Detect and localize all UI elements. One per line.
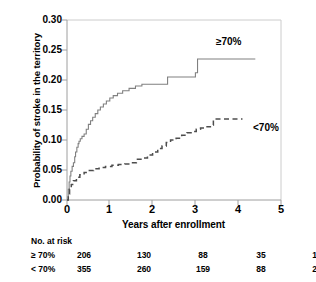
x-tick-label: 3 <box>185 203 205 215</box>
risk-cell: 10 <box>300 250 316 260</box>
x-tick-label: 5 <box>271 203 291 215</box>
y-tick-marks <box>62 20 67 200</box>
risk-table-title: No. at risk <box>31 236 72 246</box>
x-axis-title: Years after enrollment <box>66 219 281 230</box>
series-line-low <box>67 119 242 200</box>
x-tick-label: 4 <box>228 203 248 215</box>
risk-cell: 260 <box>127 264 161 274</box>
series-line-high <box>67 59 255 200</box>
series-annotation-high: ≥70% <box>216 36 242 47</box>
risk-table-row: ≥ 70% 206 130 88 35 10 <box>0 250 316 262</box>
risk-cell: 88 <box>186 250 220 260</box>
series-annotation-low: <70% <box>253 122 279 133</box>
risk-cell: 355 <box>67 264 101 274</box>
risk-table-row: < 70% 355 260 159 88 24 <box>0 264 316 276</box>
risk-cell: 206 <box>67 250 101 260</box>
risk-cell: 130 <box>127 250 161 260</box>
risk-row-label: < 70% <box>31 264 55 274</box>
risk-row-label: ≥ 70% <box>31 250 55 260</box>
risk-cell: 24 <box>300 264 316 274</box>
kaplan-meier-figure: Probability of stroke in the territory 0… <box>0 0 316 282</box>
risk-cell: 88 <box>244 264 278 274</box>
x-tick-label: 1 <box>99 203 119 215</box>
risk-cell: 159 <box>186 264 220 274</box>
x-tick-label: 0 <box>57 203 77 215</box>
x-tick-label: 2 <box>142 203 162 215</box>
risk-cell: 35 <box>244 250 278 260</box>
